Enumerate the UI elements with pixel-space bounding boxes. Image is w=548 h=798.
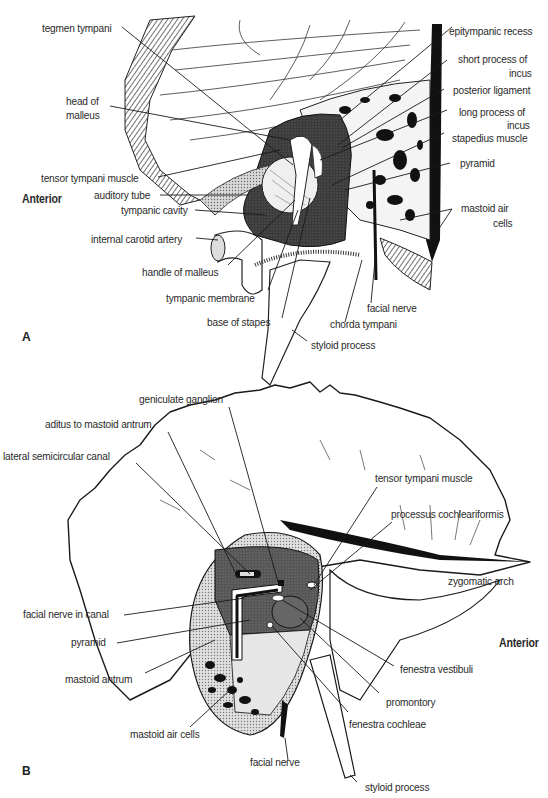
label-handle-of-malleus: handle of malleus — [142, 266, 218, 278]
label-mastoid-air-cells-a-line2: cells — [493, 217, 512, 229]
panel-letter-b: B — [22, 764, 31, 778]
label-tensor-tympani-muscle-a: tensor tympani muscle — [41, 172, 139, 184]
label-long-process-of-incus-line2: incus — [507, 119, 530, 131]
label-tympanic-cavity: tympanic cavity — [121, 204, 188, 216]
label-pyramid-a: pyramid — [460, 157, 495, 169]
label-facial-nerve-in-canal: facial nerve in canal — [23, 608, 109, 620]
label-mastoid-air-cells-a: mastoid air — [461, 202, 509, 214]
label-fenestra-cochleae: fenestra cochleae — [349, 718, 426, 730]
label-aditus-to-mastoid-antrum: aditus to mastoid antrum — [45, 418, 152, 430]
label-facial-nerve-b: facial nerve — [250, 756, 300, 768]
label-epitympanic-recess: epitympanic recess — [449, 25, 532, 37]
label-posterior-ligament: posterior ligament — [453, 84, 530, 96]
label-fenestra-vestibuli: fenestra vestibuli — [400, 663, 473, 675]
label-lateral-semicircular-canal: lateral semicircular canal — [3, 450, 110, 462]
label-head-of-malleus-line2: malleus — [66, 109, 100, 121]
panel-letter-a: A — [22, 330, 31, 344]
label-zygomatic-arch: zygomatic arch — [448, 575, 514, 587]
label-chorda-tympani: chorda tympani — [330, 318, 397, 330]
label-base-of-stapes: base of stapes — [207, 316, 270, 328]
label-styloid-process-b: styloid process — [365, 781, 429, 793]
label-short-process-of-incus: short process of — [458, 53, 527, 65]
label-tegmen-tympani: tegmen tympani — [42, 22, 112, 34]
label-internal-carotid-artery: internal carotid artery — [91, 233, 182, 245]
label-mastoid-air-cells-b: mastoid air cells — [130, 728, 200, 740]
label-mastoid-antrum: mastoid antrum — [65, 673, 132, 685]
label-geniculate-ganglion: geniculate ganglion — [139, 393, 223, 405]
label-head-of-malleus: head of — [66, 95, 99, 107]
label-processus-cochleariformis: processus cochleariformis — [391, 508, 504, 520]
label-styloid-process-a: styloid process — [311, 339, 375, 351]
label-pyramid-b: pyramid — [71, 636, 106, 648]
label-promontory: promontory — [386, 696, 435, 708]
ear-anatomy-figure: tegmen tympani head of malleus tensor ty… — [0, 0, 548, 798]
orientation-label-anterior-b: Anterior — [499, 637, 539, 649]
label-auditory-tube: auditory tube — [94, 189, 150, 201]
orientation-label-anterior-a: Anterior — [22, 193, 62, 205]
label-stapedius-muscle: stapedius muscle — [452, 132, 527, 144]
label-tensor-tympani-muscle-b: tensor tympani muscle — [375, 472, 473, 484]
label-long-process-of-incus: long process of — [459, 106, 525, 118]
label-tympanic-membrane: tympanic membrane — [166, 292, 255, 304]
label-facial-nerve-a: facial nerve — [367, 302, 417, 314]
label-short-process-of-incus-line2: incus — [509, 67, 532, 79]
